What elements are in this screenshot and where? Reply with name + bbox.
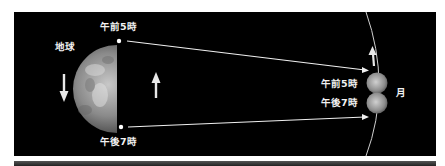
moon-evening-label: 午後7時 xyxy=(321,97,358,108)
sight-line-evening xyxy=(128,114,369,127)
moon-morning xyxy=(367,73,388,94)
moon-morning-label: 午前5時 xyxy=(321,78,358,89)
morning-point-label: 午前5時 xyxy=(100,21,137,32)
earth-rotation-arrow-down xyxy=(60,74,69,102)
earth-rotation-arrow-up xyxy=(152,72,161,98)
moon-evening xyxy=(367,93,388,114)
moon-label: 月 xyxy=(395,87,406,98)
bottom-divider xyxy=(14,161,436,166)
evening-point-label: 午後7時 xyxy=(100,136,137,147)
point-morning xyxy=(117,39,121,43)
point-evening xyxy=(119,125,123,129)
earth-label: 地球 xyxy=(55,41,75,52)
sight-line-morning xyxy=(127,41,369,73)
earth-moon-diagram: 地球 午前5時 午後7時 午前5時 午後7時 月 xyxy=(0,0,445,166)
earth xyxy=(73,45,161,133)
